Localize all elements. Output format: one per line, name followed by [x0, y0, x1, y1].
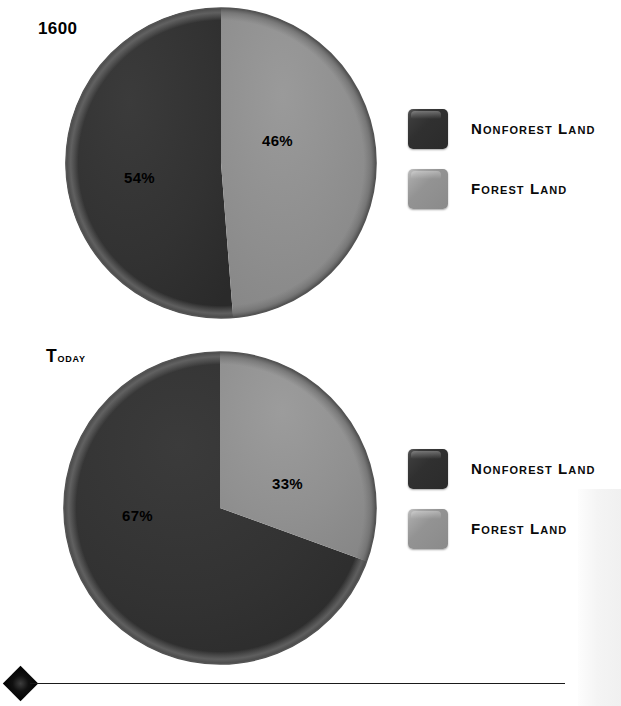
slice-label-forest-1600: 46%: [262, 132, 293, 149]
legend-item-forest-today: Forest Land: [408, 507, 596, 550]
legend-swatch-forest-icon: [408, 169, 448, 209]
legend-item-nonforest-1600: Nonforest Land: [408, 107, 596, 150]
legend-label-nonforest: Nonforest Land: [471, 460, 596, 477]
pie-svg-1600: [62, 4, 380, 322]
legend-label-forest: Forest Land: [471, 180, 567, 197]
slice-label-nonforest-1600: 54%: [124, 169, 155, 186]
pie-graphic-1600: [62, 4, 380, 322]
horizontal-rule: [30, 683, 565, 684]
pie-graphic-today: [60, 348, 380, 668]
legend-swatch-nonforest-icon: [408, 109, 448, 149]
pie-svg-today: [60, 348, 380, 668]
legend-label-nonforest: Nonforest Land: [471, 120, 596, 137]
legend-1600: Nonforest Land Forest Land: [408, 107, 596, 210]
slice-label-forest-today: 33%: [272, 475, 303, 492]
legend-label-forest: Forest Land: [471, 520, 567, 537]
legend-swatch-forest-icon: [408, 509, 448, 549]
legend-item-nonforest-today: Nonforest Land: [408, 447, 596, 490]
pie-rim-today: [64, 352, 376, 664]
chart-title-today-initial: T: [46, 346, 58, 366]
footer-divider: [0, 662, 621, 706]
legend-swatch-nonforest-icon: [408, 449, 448, 489]
slice-label-nonforest-today: 67%: [122, 507, 153, 524]
legend-item-forest-1600: Forest Land: [408, 167, 596, 210]
pie-rim-1600: [66, 8, 376, 318]
legend-today: Nonforest Land Forest Land: [408, 447, 596, 550]
